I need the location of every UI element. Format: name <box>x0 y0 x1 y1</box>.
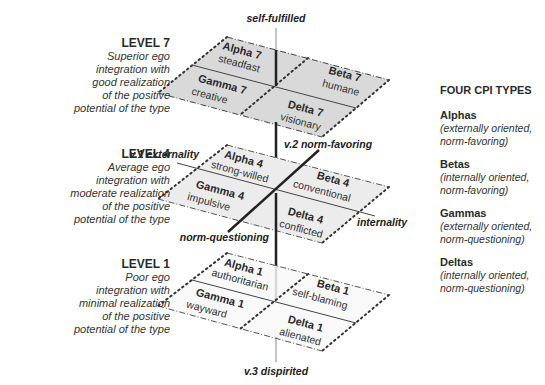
axis-label-dispirited: v.3 dispirited <box>244 365 309 377</box>
legend-item-gammas: Gammas (externally oriented, norm-questi… <box>440 207 545 246</box>
legend-item-deltas: Deltas (internally oriented, norm-questi… <box>440 256 545 295</box>
level-1-description: LEVEL 1 Poor ego integration with minima… <box>10 257 170 336</box>
legend-desc-line: norm-questioning) <box>440 233 545 246</box>
level-4-line: integration with <box>10 174 170 187</box>
legend-type-desc: (externally oriented, norm-questioning) <box>440 220 545 246</box>
level-4-title: LEVEL 4 <box>10 147 170 161</box>
legend-type-name: Deltas <box>440 256 545 269</box>
legend-desc-line: norm-favoring) <box>440 184 545 197</box>
level-7-line: good realization <box>10 76 170 89</box>
legend-item-alphas: Alphas (externally oriented, norm-favori… <box>440 109 545 148</box>
level-1-line: integration with <box>10 284 170 297</box>
level-4-line: potential of the type <box>10 213 170 226</box>
legend-type-name: Betas <box>440 158 545 171</box>
level-4-description: LEVEL 4 Average ego integration with mod… <box>10 147 170 226</box>
axis-label-internality: internality <box>357 216 408 228</box>
legend-type-desc: (externally oriented, norm-favoring) <box>440 122 545 148</box>
level-7-description: LEVEL 7 Superior ego integration with go… <box>10 36 170 115</box>
legend-desc-line: (internally oriented, <box>440 171 545 184</box>
level-7-line: potential of the type <box>10 102 170 115</box>
level-1-line: of the positive <box>10 310 170 323</box>
axis-label-norm-questioning: norm-questioning <box>180 231 270 243</box>
level-7-line: integration with <box>10 63 170 76</box>
cpi-types-title: FOUR CPI TYPES <box>440 84 545 97</box>
level-1-line: Poor ego <box>10 271 170 284</box>
level-4-line: Average ego <box>10 161 170 174</box>
cpi-types-legend: FOUR CPI TYPES Alphas (externally orient… <box>440 84 545 305</box>
level-1-line: potential of the type <box>10 323 170 336</box>
legend-item-betas: Betas (internally oriented, norm-favorin… <box>440 158 545 197</box>
axis-label-norm-favoring: v.2 norm-favoring <box>284 138 373 150</box>
level-1-title: LEVEL 1 <box>10 257 170 271</box>
level-7-title: LEVEL 7 <box>10 36 170 50</box>
legend-type-name: Alphas <box>440 109 545 122</box>
legend-desc-line: (internally oriented, <box>440 269 545 282</box>
legend-type-desc: (internally oriented, norm-questioning) <box>440 269 545 295</box>
legend-desc-line: (externally oriented, <box>440 220 545 233</box>
legend-type-name: Gammas <box>440 207 545 220</box>
axis-label-self-fulfilled: self-fulfilled <box>247 12 307 24</box>
legend-type-desc: (internally oriented, norm-favoring) <box>440 171 545 197</box>
legend-desc-line: (externally oriented, <box>440 122 545 135</box>
legend-desc-line: norm-questioning) <box>440 282 545 295</box>
level-7-line: of the positive <box>10 89 170 102</box>
legend-desc-line: norm-favoring) <box>440 135 545 148</box>
level-7-line: Superior ego <box>10 50 170 63</box>
level-4-line: moderate realization <box>10 187 170 200</box>
level-1-line: minimal realization <box>10 297 170 310</box>
level-4-line: of the positive <box>10 200 170 213</box>
